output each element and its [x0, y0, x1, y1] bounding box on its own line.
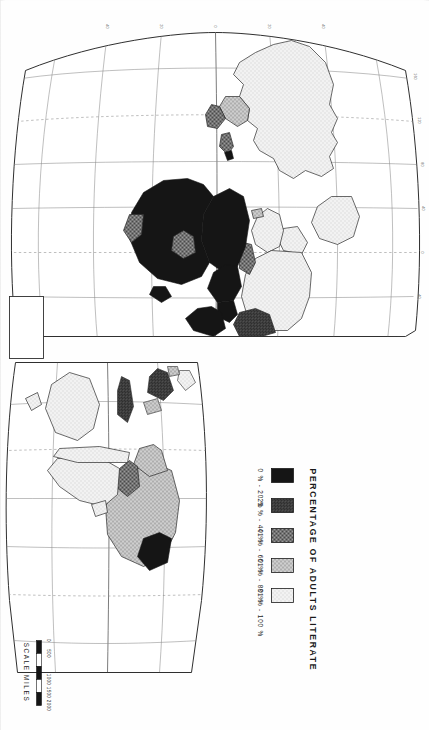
grat-label-lon: 80 [419, 162, 423, 166]
scale-tick-4: 2000 [45, 699, 50, 711]
scale-tick-0: 0 [45, 639, 50, 642]
scale-tick-1: 500 [45, 649, 50, 658]
grat-label-lat: 0 [212, 25, 216, 27]
scale-bar-blocks [36, 640, 41, 705]
grat-label-lat: 40 [320, 24, 324, 28]
main-map-panel[interactable]: 160 120 80 40 0 40 40 20 0 20 40 [11, 24, 424, 340]
grat-label-lon: 0 [419, 251, 423, 253]
legend-swatch-1 [271, 498, 293, 512]
inset-box[interactable] [9, 296, 43, 358]
grat-label-lat: 20 [158, 24, 162, 28]
world-choropleth-map[interactable]: 160 120 80 40 0 40 40 20 0 20 40 [0, 0, 429, 730]
grat-label-lat: 20 [266, 24, 270, 28]
map-page: 160 120 80 40 0 40 40 20 0 20 40 [0, 0, 429, 730]
map-plate: 160 120 80 40 0 40 40 20 0 20 40 [0, 0, 429, 730]
grat-label-lon: 160 [412, 73, 416, 80]
legend-swatch-4 [271, 588, 293, 602]
legend-title: PERCENTAGE OF ADULTS LITERATE [307, 468, 317, 671]
secondary-map-panel[interactable]: 80 120 [0, 362, 208, 672]
scale-tick-2: 1000 [45, 673, 50, 685]
grat-label-lon: 40 [420, 206, 424, 210]
grat-label-lat: 40 [104, 24, 108, 28]
legend-swatch-0 [271, 468, 293, 482]
grat-label-lon: 40 [416, 294, 420, 298]
scale-tick-3: 1500 [45, 686, 50, 698]
legend-label-4: 81 % - 100 % [256, 588, 263, 637]
legend-swatch-3 [271, 558, 293, 572]
grat-label-lon: 120 [416, 117, 420, 124]
scale-bar-title: SCALE MILES [22, 642, 29, 702]
legend-swatch-2 [271, 528, 293, 542]
region-korea[interactable] [167, 366, 179, 376]
